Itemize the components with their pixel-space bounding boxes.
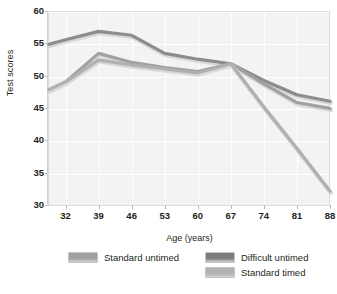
- series-lines: [49, 12, 330, 206]
- x-axis-tick-label: 74: [249, 210, 279, 221]
- line-chart: Test scores 60555045403530 3239465360677…: [0, 0, 337, 294]
- x-axis-tick-mark: [132, 205, 133, 209]
- legend-label: Standard timed: [241, 267, 305, 278]
- x-axis-tick-mark: [198, 205, 199, 209]
- plot-area: [49, 11, 330, 205]
- x-axis-tick-mark: [264, 205, 265, 209]
- legend-swatch: [68, 252, 98, 263]
- y-axis-tick-label: 45: [22, 103, 44, 113]
- x-axis-tick-label: 67: [216, 210, 246, 221]
- y-axis-tick-label: 55: [22, 38, 44, 48]
- legend-label: Difficult untimed: [241, 252, 308, 263]
- x-axis-tick-label: 60: [183, 210, 213, 221]
- series-line: [49, 60, 330, 191]
- y-axis-tick-label: 40: [22, 135, 44, 145]
- x-axis-tick-mark: [297, 205, 298, 209]
- legend-item[interactable]: Difficult untimed: [205, 252, 308, 263]
- x-axis-tick-label: 46: [117, 210, 147, 221]
- x-axis-tick-mark: [330, 205, 331, 209]
- series-line-shadow: [50, 61, 331, 192]
- x-axis-title: Age (years): [49, 233, 330, 243]
- chart-legend: Standard untimedDifficult untimedStandar…: [0, 250, 337, 294]
- y-axis-tick-label: 35: [22, 168, 44, 178]
- x-axis-tick-label: 81: [282, 210, 312, 221]
- legend-swatch: [205, 267, 235, 278]
- legend-item[interactable]: Standard untimed: [68, 252, 179, 263]
- legend-item[interactable]: Standard timed: [205, 267, 305, 278]
- x-axis-tick-label: 53: [150, 210, 180, 221]
- legend-swatch: [205, 252, 235, 263]
- x-axis-tick-mark: [231, 205, 232, 209]
- x-axis-tick-label: 88: [315, 210, 337, 221]
- x-axis-tick-mark: [99, 205, 100, 209]
- x-axis-tick-label: 32: [51, 210, 81, 221]
- legend-label: Standard untimed: [104, 252, 179, 263]
- y-axis-tick-label: 60: [22, 6, 44, 16]
- x-axis-tick-mark: [165, 205, 166, 209]
- y-axis-title: Test scores: [5, 28, 15, 118]
- y-axis-tick-label: 30: [22, 200, 44, 210]
- x-axis-tick-label: 39: [84, 210, 114, 221]
- x-axis-tick-mark: [66, 205, 67, 209]
- y-axis-tick-label: 50: [22, 71, 44, 81]
